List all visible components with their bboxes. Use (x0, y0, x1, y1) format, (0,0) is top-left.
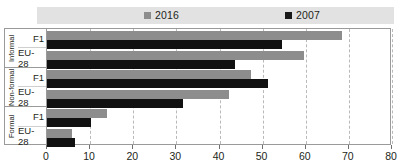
tick-label-50: 50 (247, 150, 277, 162)
gridline-80 (392, 29, 393, 144)
group-label-formal: Formal (5, 107, 18, 146)
tick-mark-50 (262, 145, 263, 149)
tick-label-0: 0 (31, 150, 61, 162)
category-label-informal-eu28: EU-28 (18, 48, 47, 67)
legend-entry-2016: 2016 (144, 7, 179, 24)
plot-area (46, 28, 391, 145)
tick-label-60: 60 (290, 150, 320, 162)
bar-2016-non-formal-eu28 (47, 90, 229, 99)
tick-mark-60 (305, 145, 306, 149)
category-group-non-formal: Non-formal F1 EU-28 (5, 68, 47, 107)
category-axis: Informal F1 EU-28 Non-formal F1 EU-28 Fo… (4, 28, 46, 145)
bar-2016-informal-f1 (47, 31, 342, 40)
category-label-informal-f1: F1 (18, 29, 47, 48)
legend-swatch-icon-2007 (285, 12, 292, 19)
tick-mark-70 (348, 145, 349, 149)
category-group-formal: Formal F1 EU-28 (5, 107, 47, 146)
group-label-informal: Informal (5, 29, 18, 67)
tick-mark-20 (132, 145, 133, 149)
group-label-non-formal: Non-formal (5, 68, 18, 106)
bar-2016-non-formal-f1 (47, 70, 251, 79)
tick-label-40: 40 (204, 150, 234, 162)
tick-label-80: 80 (376, 150, 404, 162)
category-label-non-formal-eu28: EU-28 (18, 87, 47, 106)
bar-2016-informal-eu28 (47, 51, 304, 60)
bar-group-informal-eu28 (47, 49, 390, 69)
bar-2016-formal-f1 (47, 109, 107, 118)
bar-group-non-formal-eu28 (47, 88, 390, 108)
bar-chart: 2016 2007 Informal F1 EU-28 Non-formal F… (0, 0, 404, 168)
legend-entry-2007: 2007 (285, 7, 320, 24)
bar-group-formal-eu28 (47, 127, 390, 147)
legend-label-2016: 2016 (155, 10, 179, 21)
tick-mark-40 (219, 145, 220, 149)
bar-group-formal-f1 (47, 107, 390, 127)
tick-mark-30 (175, 145, 176, 149)
tick-label-70: 70 (333, 150, 363, 162)
bar-group-non-formal-f1 (47, 68, 390, 88)
bar-2016-formal-eu28 (47, 129, 72, 138)
value-axis: 01020304050607080 (46, 145, 391, 167)
category-label-formal-f1: F1 (18, 107, 47, 127)
tick-label-20: 20 (117, 150, 147, 162)
bar-group-informal-f1 (47, 29, 390, 49)
tick-mark-0 (46, 145, 47, 149)
tick-label-10: 10 (74, 150, 104, 162)
legend-label-2007: 2007 (296, 10, 320, 21)
tick-mark-80 (391, 145, 392, 149)
category-label-non-formal-f1: F1 (18, 68, 47, 87)
chart-legend: 2016 2007 (37, 7, 394, 24)
tick-label-30: 30 (160, 150, 190, 162)
tick-mark-10 (89, 145, 90, 149)
legend-swatch-icon-2016 (144, 12, 151, 19)
category-label-formal-eu28: EU-28 (18, 127, 47, 147)
category-group-informal: Informal F1 EU-28 (5, 29, 47, 68)
